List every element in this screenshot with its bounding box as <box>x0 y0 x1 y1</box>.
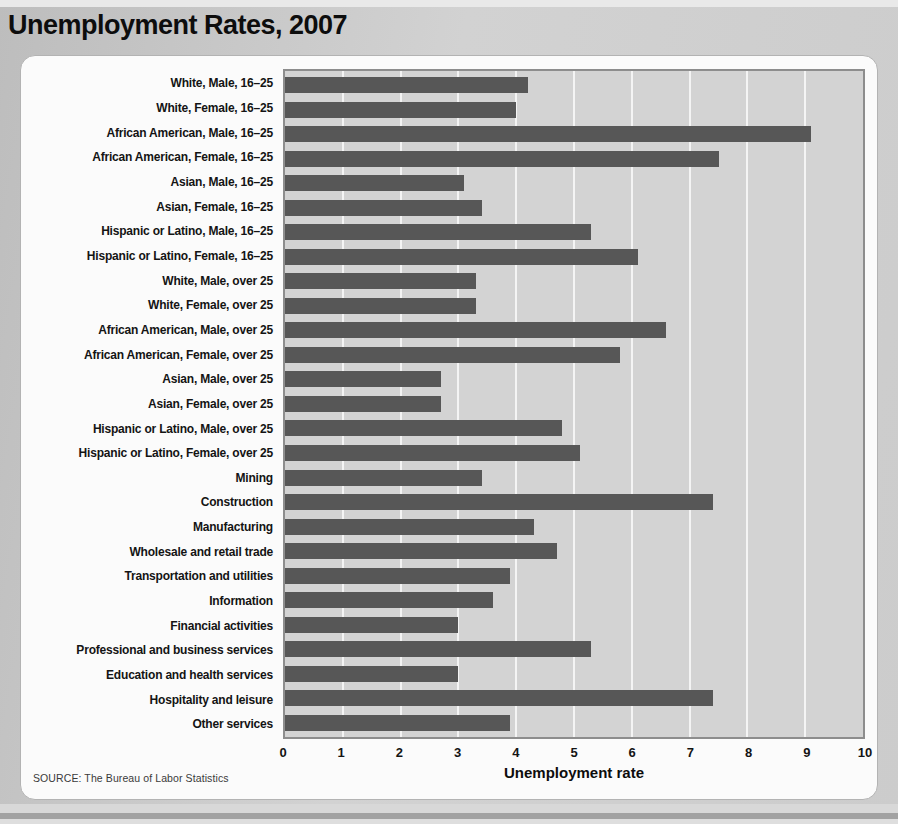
category-label: Education and health services <box>21 667 273 683</box>
bar <box>285 151 719 167</box>
category-label: Hispanic or Latino, Female, over 25 <box>21 445 273 461</box>
bar-row <box>285 519 863 535</box>
bar <box>285 298 476 314</box>
bar-row <box>285 126 863 142</box>
bar-row <box>285 690 863 706</box>
category-label: African American, Female, over 25 <box>21 347 273 363</box>
bar <box>285 224 591 240</box>
x-tick-label: 2 <box>396 745 403 760</box>
bar <box>285 77 528 93</box>
bar <box>285 126 811 142</box>
bar-row <box>285 102 863 118</box>
x-tick-label: 9 <box>803 745 810 760</box>
bar <box>285 494 713 510</box>
category-label: White, Female, 16–25 <box>21 100 273 116</box>
bar-row <box>285 175 863 191</box>
x-tick-label: 5 <box>570 745 577 760</box>
bar <box>285 568 510 584</box>
category-label: Other services <box>21 716 273 732</box>
x-axis-title: Unemployment rate <box>283 764 865 781</box>
bar <box>285 617 458 633</box>
category-label: Wholesale and retail trade <box>21 544 273 560</box>
category-label: Asian, Male, 16–25 <box>21 174 273 190</box>
bar <box>285 200 482 216</box>
category-label: Financial activities <box>21 618 273 634</box>
category-label: Construction <box>21 494 273 510</box>
bar-row <box>285 200 863 216</box>
bar-row <box>285 445 863 461</box>
bar <box>285 690 713 706</box>
bar <box>285 666 458 682</box>
category-label: Asian, Female, over 25 <box>21 396 273 412</box>
category-label: Transportation and utilities <box>21 568 273 584</box>
bar <box>285 519 534 535</box>
category-label: Hispanic or Latino, Male, 16–25 <box>21 223 273 239</box>
plot-area <box>283 69 865 739</box>
category-label: Hospitality and leisure <box>21 692 273 708</box>
bar-row <box>285 322 863 338</box>
x-tick-label: 10 <box>858 745 872 760</box>
bar-row <box>285 592 863 608</box>
page-bottom-band-foot <box>0 819 898 824</box>
bar-row <box>285 151 863 167</box>
page-bottom-band-light <box>0 804 898 813</box>
category-label: Hispanic or Latino, Female, 16–25 <box>21 248 273 264</box>
category-labels: White, Male, 16–25White, Female, 16–25Af… <box>21 69 273 739</box>
page-title: Unemployment Rates, 2007 <box>8 10 347 41</box>
category-label: African American, Male, 16–25 <box>21 125 273 141</box>
category-label: Asian, Female, 16–25 <box>21 199 273 215</box>
x-tick-label: 7 <box>687 745 694 760</box>
bar-row <box>285 568 863 584</box>
bar-rows <box>285 71 863 737</box>
bar <box>285 396 441 412</box>
bar <box>285 273 476 289</box>
bar <box>285 322 666 338</box>
bar-row <box>285 371 863 387</box>
page-top-strip <box>0 0 898 7</box>
bar <box>285 175 464 191</box>
bar-row <box>285 396 863 412</box>
bar-row <box>285 715 863 731</box>
bar-row <box>285 470 863 486</box>
x-axis-ticks: 012345678910 <box>283 745 865 763</box>
bar-row <box>285 224 863 240</box>
chart-card: White, Male, 16–25White, Female, 16–25Af… <box>20 55 878 800</box>
x-tick-label: 3 <box>454 745 461 760</box>
bar <box>285 470 482 486</box>
bar-row <box>285 494 863 510</box>
bar-row <box>285 347 863 363</box>
bar <box>285 249 638 265</box>
x-tick-label: 4 <box>512 745 519 760</box>
x-tick-label: 8 <box>745 745 752 760</box>
bar <box>285 641 591 657</box>
x-tick-label: 6 <box>629 745 636 760</box>
x-tick-label: 1 <box>338 745 345 760</box>
category-label: White, Female, over 25 <box>21 297 273 313</box>
category-label: African American, Male, over 25 <box>21 322 273 338</box>
category-label: Information <box>21 593 273 609</box>
bar <box>285 371 441 387</box>
bar-row <box>285 543 863 559</box>
bar <box>285 445 580 461</box>
bar <box>285 543 557 559</box>
category-label: White, Male, over 25 <box>21 273 273 289</box>
bar <box>285 102 516 118</box>
category-label: African American, Female, 16–25 <box>21 149 273 165</box>
category-label: White, Male, 16–25 <box>21 75 273 91</box>
bar <box>285 347 620 363</box>
bar <box>285 592 493 608</box>
bar-row <box>285 77 863 93</box>
bar-row <box>285 273 863 289</box>
bar-row <box>285 617 863 633</box>
bar <box>285 715 510 731</box>
x-tick-label: 0 <box>279 745 286 760</box>
category-label: Hispanic or Latino, Male, over 25 <box>21 421 273 437</box>
bar-row <box>285 641 863 657</box>
category-label: Mining <box>21 470 273 486</box>
category-label: Manufacturing <box>21 519 273 535</box>
source-note: SOURCE: The Bureau of Labor Statistics <box>33 772 229 784</box>
category-label: Asian, Male, over 25 <box>21 371 273 387</box>
bar <box>285 420 562 436</box>
bar-row <box>285 249 863 265</box>
category-label: Professional and business services <box>21 642 273 658</box>
